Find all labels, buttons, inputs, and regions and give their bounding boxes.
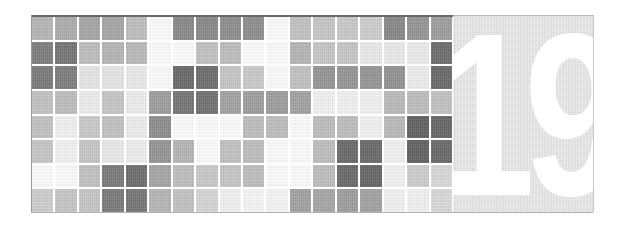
mosaic-cell [313, 116, 334, 139]
mosaic-cell [243, 116, 264, 139]
mosaic-cell [196, 17, 217, 40]
mosaic-cell [313, 66, 334, 89]
mosaic-cell [266, 116, 287, 139]
mosaic-cell [55, 66, 76, 89]
mosaic-cell [337, 42, 358, 65]
mosaic-cell [431, 42, 452, 65]
mosaic-cell [266, 66, 287, 89]
mosaic-cell [32, 91, 53, 114]
mosaic-cell [243, 66, 264, 89]
mosaic-cell [55, 91, 76, 114]
mosaic-cell [337, 189, 358, 212]
mosaic-cell [313, 17, 334, 40]
frame-left-rule [31, 15, 32, 213]
mosaic-cell [290, 189, 311, 212]
mosaic-cell [407, 91, 428, 114]
mosaic-cell [102, 189, 123, 212]
mosaic-cell [407, 165, 428, 188]
mosaic-cell [360, 189, 381, 212]
mosaic-cell [32, 189, 53, 212]
mosaic-cell [102, 116, 123, 139]
mosaic-cell [360, 42, 381, 65]
mosaic-cell [126, 66, 147, 89]
mosaic-cell [360, 91, 381, 114]
mosaic-cell [431, 66, 452, 89]
mosaic-cell [126, 140, 147, 163]
mosaic-cell [173, 42, 194, 65]
mosaic-cell [102, 165, 123, 188]
mosaic-cell [431, 116, 452, 139]
mosaic-cell [407, 189, 428, 212]
mosaic-cell [266, 91, 287, 114]
mosaic-cell [384, 165, 405, 188]
mosaic-cell [196, 116, 217, 139]
mosaic-cell [431, 140, 452, 163]
mosaic-cell [290, 66, 311, 89]
mosaic-cell [173, 66, 194, 89]
mosaic-cell [337, 66, 358, 89]
mosaic-cell [266, 189, 287, 212]
mosaic-cell [360, 165, 381, 188]
mosaic-cell [32, 116, 53, 139]
chapter-opener-figure: 19 [31, 15, 594, 213]
mosaic-cell [220, 17, 241, 40]
mosaic-cell [360, 66, 381, 89]
mosaic-cell [243, 189, 264, 212]
mosaic-cell [290, 42, 311, 65]
mosaic-cell [32, 140, 53, 163]
mosaic-cell [290, 17, 311, 40]
frame-top-rule [31, 15, 453, 17]
mosaic-cell [55, 140, 76, 163]
mosaic-cell [196, 165, 217, 188]
grayscale-mosaic-grid [32, 17, 452, 212]
mosaic-cell [79, 189, 100, 212]
mosaic-cell [220, 91, 241, 114]
mosaic-cell [313, 91, 334, 114]
mosaic-cell [243, 42, 264, 65]
mosaic-cell [79, 91, 100, 114]
mosaic-cell [196, 140, 217, 163]
mosaic-cell [149, 42, 170, 65]
mosaic-cell [431, 189, 452, 212]
mosaic-cell [384, 66, 405, 89]
mosaic-cell [173, 140, 194, 163]
mosaic-cell [79, 165, 100, 188]
mosaic-cell [313, 189, 334, 212]
mosaic-cell [431, 91, 452, 114]
mosaic-cell [266, 140, 287, 163]
mosaic-cell [360, 17, 381, 40]
mosaic-cell [102, 91, 123, 114]
mosaic-cell [384, 42, 405, 65]
mosaic-cell [196, 91, 217, 114]
mosaic-cell [149, 140, 170, 163]
mosaic-cell [102, 66, 123, 89]
mosaic-cell [196, 189, 217, 212]
mosaic-cell [220, 140, 241, 163]
mosaic-cell [384, 91, 405, 114]
mosaic-cell [79, 140, 100, 163]
mosaic-cell [243, 17, 264, 40]
mosaic-cell [407, 66, 428, 89]
mosaic-cell [126, 189, 147, 212]
chapter-number-panel: 19 [453, 15, 594, 212]
mosaic-cell [126, 91, 147, 114]
mosaic-cell [431, 165, 452, 188]
mosaic-cell [220, 66, 241, 89]
mosaic-cell [32, 66, 53, 89]
mosaic-cell [55, 189, 76, 212]
mosaic-cell [55, 165, 76, 188]
mosaic-cell [126, 42, 147, 65]
mosaic-cell [126, 17, 147, 40]
mosaic-cell [32, 165, 53, 188]
mosaic-cell [407, 17, 428, 40]
mosaic-cell [337, 17, 358, 40]
mosaic-cell [32, 42, 53, 65]
mosaic-cell [266, 42, 287, 65]
mosaic-cell [102, 42, 123, 65]
mosaic-cell [266, 165, 287, 188]
mosaic-cell [220, 116, 241, 139]
mosaic-cell [32, 17, 53, 40]
mosaic-cell [196, 42, 217, 65]
mosaic-cell [384, 189, 405, 212]
mosaic-cell [102, 17, 123, 40]
